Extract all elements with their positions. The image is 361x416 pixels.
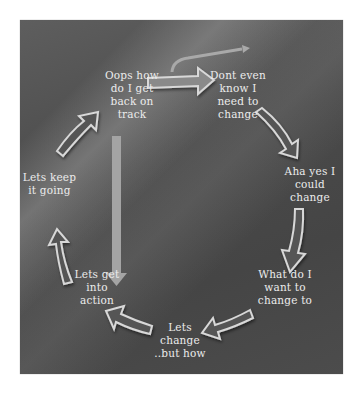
step-label-what-do-i-want: What do I want to change to [245, 268, 325, 307]
step-label-lets-get-into-action: Lets get into action [62, 268, 132, 307]
arrow-relapse-down-icon [106, 136, 127, 286]
arrow-down-icon [282, 209, 305, 272]
step-label-lets-change: Lets change ..but how [145, 321, 215, 360]
step-label-dont-even-know: Dont even know I need to change [198, 69, 278, 121]
step-label-lets-keep-it-going: Lets keep it going [12, 171, 87, 197]
cycle-diagram-panel: Oops how do I get back on track Dont eve… [20, 20, 343, 374]
step-label-aha: Aha yes I could change [275, 165, 345, 204]
thin-arrow-icon [172, 45, 250, 72]
step-label-oops: Oops how do I get back on track [92, 69, 172, 121]
